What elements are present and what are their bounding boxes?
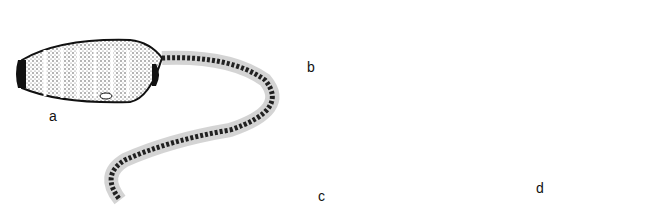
illustration (0, 0, 668, 222)
figure-canvas: a b c d (0, 0, 668, 222)
panel-label-d: d (536, 181, 544, 195)
panel-label-c: c (318, 189, 325, 203)
panel-label-a: a (49, 109, 57, 123)
panel-label-b: b (307, 60, 315, 74)
